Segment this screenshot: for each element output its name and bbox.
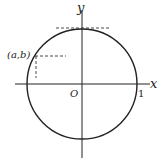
x-axis-label: x <box>150 76 158 91</box>
radius-tick-label: 1 <box>138 88 144 99</box>
point-label: (a,b) <box>7 49 30 60</box>
unit-circle-diagram: y x O 1 (a,b) <box>0 0 164 168</box>
y-axis-label: y <box>76 0 85 15</box>
origin-label: O <box>70 88 78 99</box>
diagram-canvas: y x O 1 (a,b) <box>0 0 164 168</box>
